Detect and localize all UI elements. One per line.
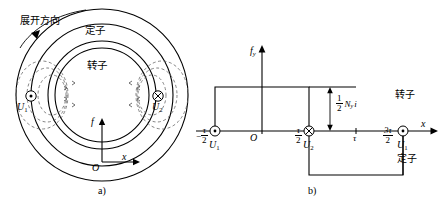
conductor-u1-left-label-b: U1: [209, 140, 220, 152]
flux-direction-arrows: [64, 81, 140, 107]
u1-subscript-b-left: 1: [216, 144, 219, 151]
stator-label-a: 定子: [85, 25, 105, 36]
tick-den-neg-half-tau: 2: [201, 136, 208, 145]
tick-label-half-tau: τ2: [295, 126, 302, 145]
x-arrowhead-b: [431, 128, 439, 135]
amplitude-label: 12Nyi: [336, 94, 357, 113]
tick-label-neg-half-tau: −τ2: [196, 126, 208, 145]
u2-subscript-b: 2: [310, 144, 313, 151]
conductor-u2-marker-b: [304, 126, 314, 136]
amplitude-arrow-top: [327, 87, 333, 93]
fy-axis-label-b: fy: [250, 46, 256, 58]
conductor-u1-right-label-b: U1: [397, 140, 408, 152]
tick-den-half-tau: 2: [295, 136, 302, 145]
fy-arrowhead-b: [259, 45, 266, 53]
rotor-label-a: 转子: [87, 60, 107, 71]
amplitude-denominator: 2: [336, 104, 343, 113]
conductor-u1-right-marker-b: [398, 126, 408, 136]
conductor-u2-marker-a: [153, 91, 163, 101]
caption-a: a): [98, 186, 106, 196]
conductor-u2-label-b: U2: [303, 140, 314, 152]
u1-subscript-a: 1: [24, 106, 27, 113]
amplitude-arrow-bottom: [327, 125, 333, 131]
rotor-label-b: 转子: [395, 90, 415, 100]
tick-label-tau: τ: [353, 134, 356, 143]
conductor-u1-left-marker-b: [210, 126, 220, 136]
caption-b: b): [308, 186, 316, 196]
force-axis-label-a: f: [91, 117, 94, 127]
origin-label-a: O: [92, 163, 99, 173]
conductor-u1-label-a: U1: [17, 102, 28, 114]
amplitude-symbol-subscript: y: [351, 103, 354, 109]
x-axis-label-b: x: [421, 119, 425, 129]
u1-subscript-b-right: 1: [404, 144, 407, 151]
conductor-u1-marker-a: [26, 91, 36, 101]
fy-subscript: y: [253, 50, 256, 57]
amplitude-current-i: i: [354, 99, 357, 109]
tick-label-three-half-tau: 3τ2: [383, 126, 393, 145]
f-arrowhead-a: [99, 118, 105, 125]
stator-label-b: 定子: [397, 154, 417, 164]
x-arrowhead-a: [133, 159, 140, 165]
x-axis-label-a: x: [122, 152, 126, 162]
tick-den-three-half-tau: 2: [383, 136, 393, 145]
unfold-direction-label: 展开方向: [20, 16, 60, 26]
u2-subscript-a: 2: [159, 106, 162, 113]
figure-canvas: [0, 0, 448, 208]
conductor-u2-label-a: U2: [152, 102, 163, 114]
origin-label-b: O: [250, 133, 257, 143]
